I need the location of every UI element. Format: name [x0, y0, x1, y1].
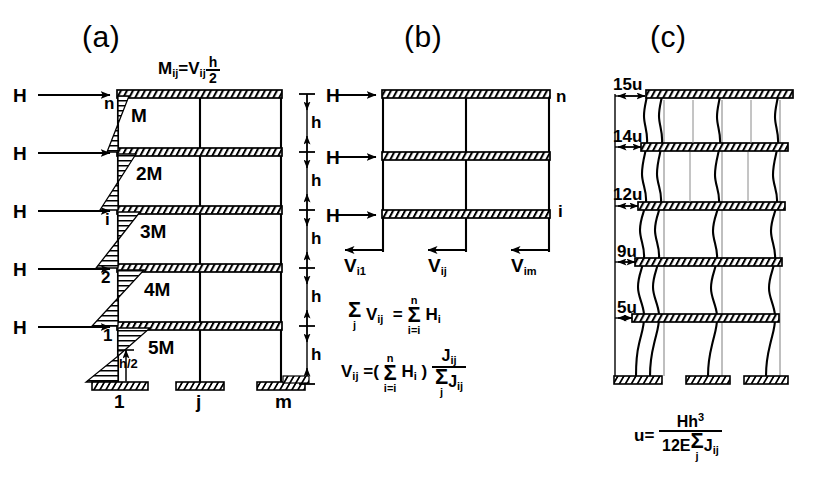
- shear-3-sub: im: [524, 265, 537, 277]
- eq2-den-sum: Σj: [435, 368, 448, 398]
- eq2-den-J: J: [448, 373, 457, 390]
- panel-b-node-label-i: i: [558, 203, 563, 220]
- storey-height-label-4: h: [311, 288, 321, 305]
- panel-b-shear-label-1: Vi1: [344, 256, 366, 277]
- panel-c-deflection-label-2: 14u: [613, 128, 642, 145]
- eq-a-M: M: [158, 59, 172, 78]
- eq2-V: V: [341, 362, 352, 381]
- eqc-num-H: H: [677, 413, 689, 430]
- eq2-frac-den: ΣjJij: [432, 368, 466, 398]
- eq1-sum2-bot: i=i: [408, 325, 421, 336]
- panel-b-shear-label-3: Vim: [511, 256, 537, 277]
- eq-a-fraction: h2: [206, 55, 221, 85]
- eqc-den-J-sub: ij: [713, 444, 719, 456]
- panel-a-half-height-label: h/2: [119, 357, 138, 370]
- eqc-den-pre: 12E: [662, 437, 690, 454]
- panel-a-moment-label-1: M: [131, 106, 147, 125]
- panel-a-load-label-1: H: [13, 86, 27, 105]
- panel-a-moment-label-4: 4M: [144, 280, 170, 299]
- eq2-H: H: [401, 362, 413, 381]
- panel-b-node-label-n: n: [556, 88, 566, 105]
- eq1-equals: =: [393, 305, 403, 324]
- panel-a-moment-label-2: 2M: [136, 164, 162, 183]
- eqc-lhs: u=: [634, 426, 654, 445]
- panel-a-title: (a): [82, 22, 120, 52]
- panel-c-deflected-columns: [636, 96, 778, 376]
- panel-c-deflection-label-1: 15u: [613, 76, 642, 93]
- eq1-V-sub: ij: [377, 313, 383, 325]
- half-height-den: 2: [131, 356, 138, 371]
- panel-b-load-label-1: H: [326, 86, 340, 105]
- panel-a-load-label-3: H: [13, 202, 27, 221]
- panel-b-load-label-3: H: [326, 206, 340, 225]
- eq1-sum2: n Σ i=i: [408, 295, 421, 336]
- panel-a-floor-label-i: i: [105, 211, 110, 228]
- panel-b-shear-label-2: Vij: [428, 256, 447, 277]
- eq2-H-sub: i: [414, 370, 417, 382]
- shear-1-sym: V: [344, 255, 357, 276]
- panel-a-floor-label-2: 2: [101, 269, 110, 286]
- eqc-frac-den: 12EΣjJij: [659, 432, 722, 462]
- panel-b-frame: [330, 90, 550, 252]
- panel-c-supports: [614, 376, 788, 384]
- eq2-sum-bot: i=i: [384, 383, 397, 394]
- storey-height-label-2: h: [311, 172, 321, 189]
- eq2-open: =(: [363, 362, 379, 381]
- eqc-den-J: J: [704, 437, 713, 454]
- panel-b-equation-2: Vij =( n Σ i=i Hi ) Jij ΣjJij: [341, 348, 466, 398]
- panel-c-deflection-label-3: 12u: [613, 186, 642, 203]
- panel-b-load-label-2: H: [326, 148, 340, 167]
- eq2-close: ): [422, 362, 428, 381]
- panel-a-floor-label-n: n: [104, 95, 114, 112]
- panel-a-load-arrows: [38, 95, 110, 327]
- panel-a-load-label-2: H: [13, 144, 27, 163]
- panel-a-moment-label-3: 3M: [140, 222, 166, 241]
- panel-a-base-label-1: 1: [114, 392, 125, 411]
- panel-b-title: (b): [404, 22, 442, 52]
- eq1-sum1-sym: Σ: [348, 297, 361, 322]
- eqc-num-exp: 3: [698, 411, 704, 423]
- eq2-sum: n Σ i=i: [384, 353, 397, 394]
- shear-2-sub: ij: [441, 265, 447, 277]
- eq1-sum1: Σ j: [348, 301, 361, 331]
- eq1-H-sub: i: [438, 313, 441, 325]
- eq1-H: H: [425, 305, 437, 324]
- eq2-sum-sym: Σ: [384, 360, 397, 385]
- panel-c-reference-lines: [664, 100, 780, 376]
- eq-a-equals: =: [178, 59, 188, 78]
- panel-a-base-label-m: m: [275, 392, 292, 411]
- eq2-den-J-sub: ij: [457, 380, 463, 392]
- panel-a-load-label-5: H: [13, 318, 27, 337]
- eq-a-V: V: [188, 59, 199, 78]
- storey-height-label-5: h: [311, 346, 321, 363]
- panel-a-moment-equation: Mij=Vijh2: [158, 55, 220, 85]
- shear-3-sym: V: [511, 255, 524, 276]
- panel-a-base-label-j: j: [196, 392, 201, 411]
- eq-a-frac-num: h: [206, 55, 221, 71]
- eq2-num-J-sub: ij: [450, 354, 456, 366]
- panel-a-floor-label-1: 1: [103, 327, 112, 344]
- eq2-V-sub: ij: [352, 370, 358, 382]
- panel-c-deflection-label-5: 5u: [617, 299, 637, 316]
- storey-height-label-1: h: [311, 114, 321, 131]
- eqc-fraction: Hh3 12EΣjJij: [659, 412, 722, 462]
- panel-a-supports: [92, 382, 305, 390]
- panel-c-deflection-label-4: 9u: [617, 243, 637, 260]
- panel-c-equation: u= Hh3 12EΣjJij: [634, 412, 722, 462]
- shear-2-sym: V: [428, 255, 441, 276]
- panel-a-moment-label-5: 5M: [148, 338, 174, 357]
- panel-a-load-label-4: H: [13, 260, 27, 279]
- panel-b-equation-1: Σ j Vij = n Σ i=i Hi: [348, 295, 441, 336]
- eq1-V: V: [366, 305, 377, 324]
- storey-height-label-3: h: [311, 230, 321, 247]
- panel-c-title: (c): [650, 22, 686, 52]
- figure-canvas: (a) (b) (c) Mij=Vijh2 H H H H H n i 2 1 …: [0, 0, 838, 484]
- half-height-num: h: [119, 356, 127, 371]
- eqc-den-sum: Σj: [691, 432, 704, 462]
- shear-1-sub: i1: [357, 265, 366, 277]
- eq2-fraction: Jij ΣjJij: [432, 348, 466, 398]
- eq-a-frac-den: 2: [206, 71, 221, 85]
